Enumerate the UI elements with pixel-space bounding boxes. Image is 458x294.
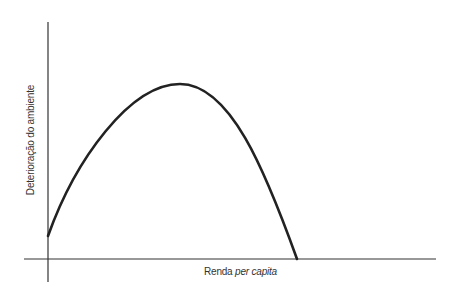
x-axis-label: Renda	[204, 266, 235, 277]
kuznets-curve	[48, 84, 297, 259]
x-axis-label-italic: per capita	[235, 266, 277, 277]
y-axis-label: Deterioração do ambiente	[25, 85, 36, 195]
diagram-canvas	[0, 0, 458, 294]
